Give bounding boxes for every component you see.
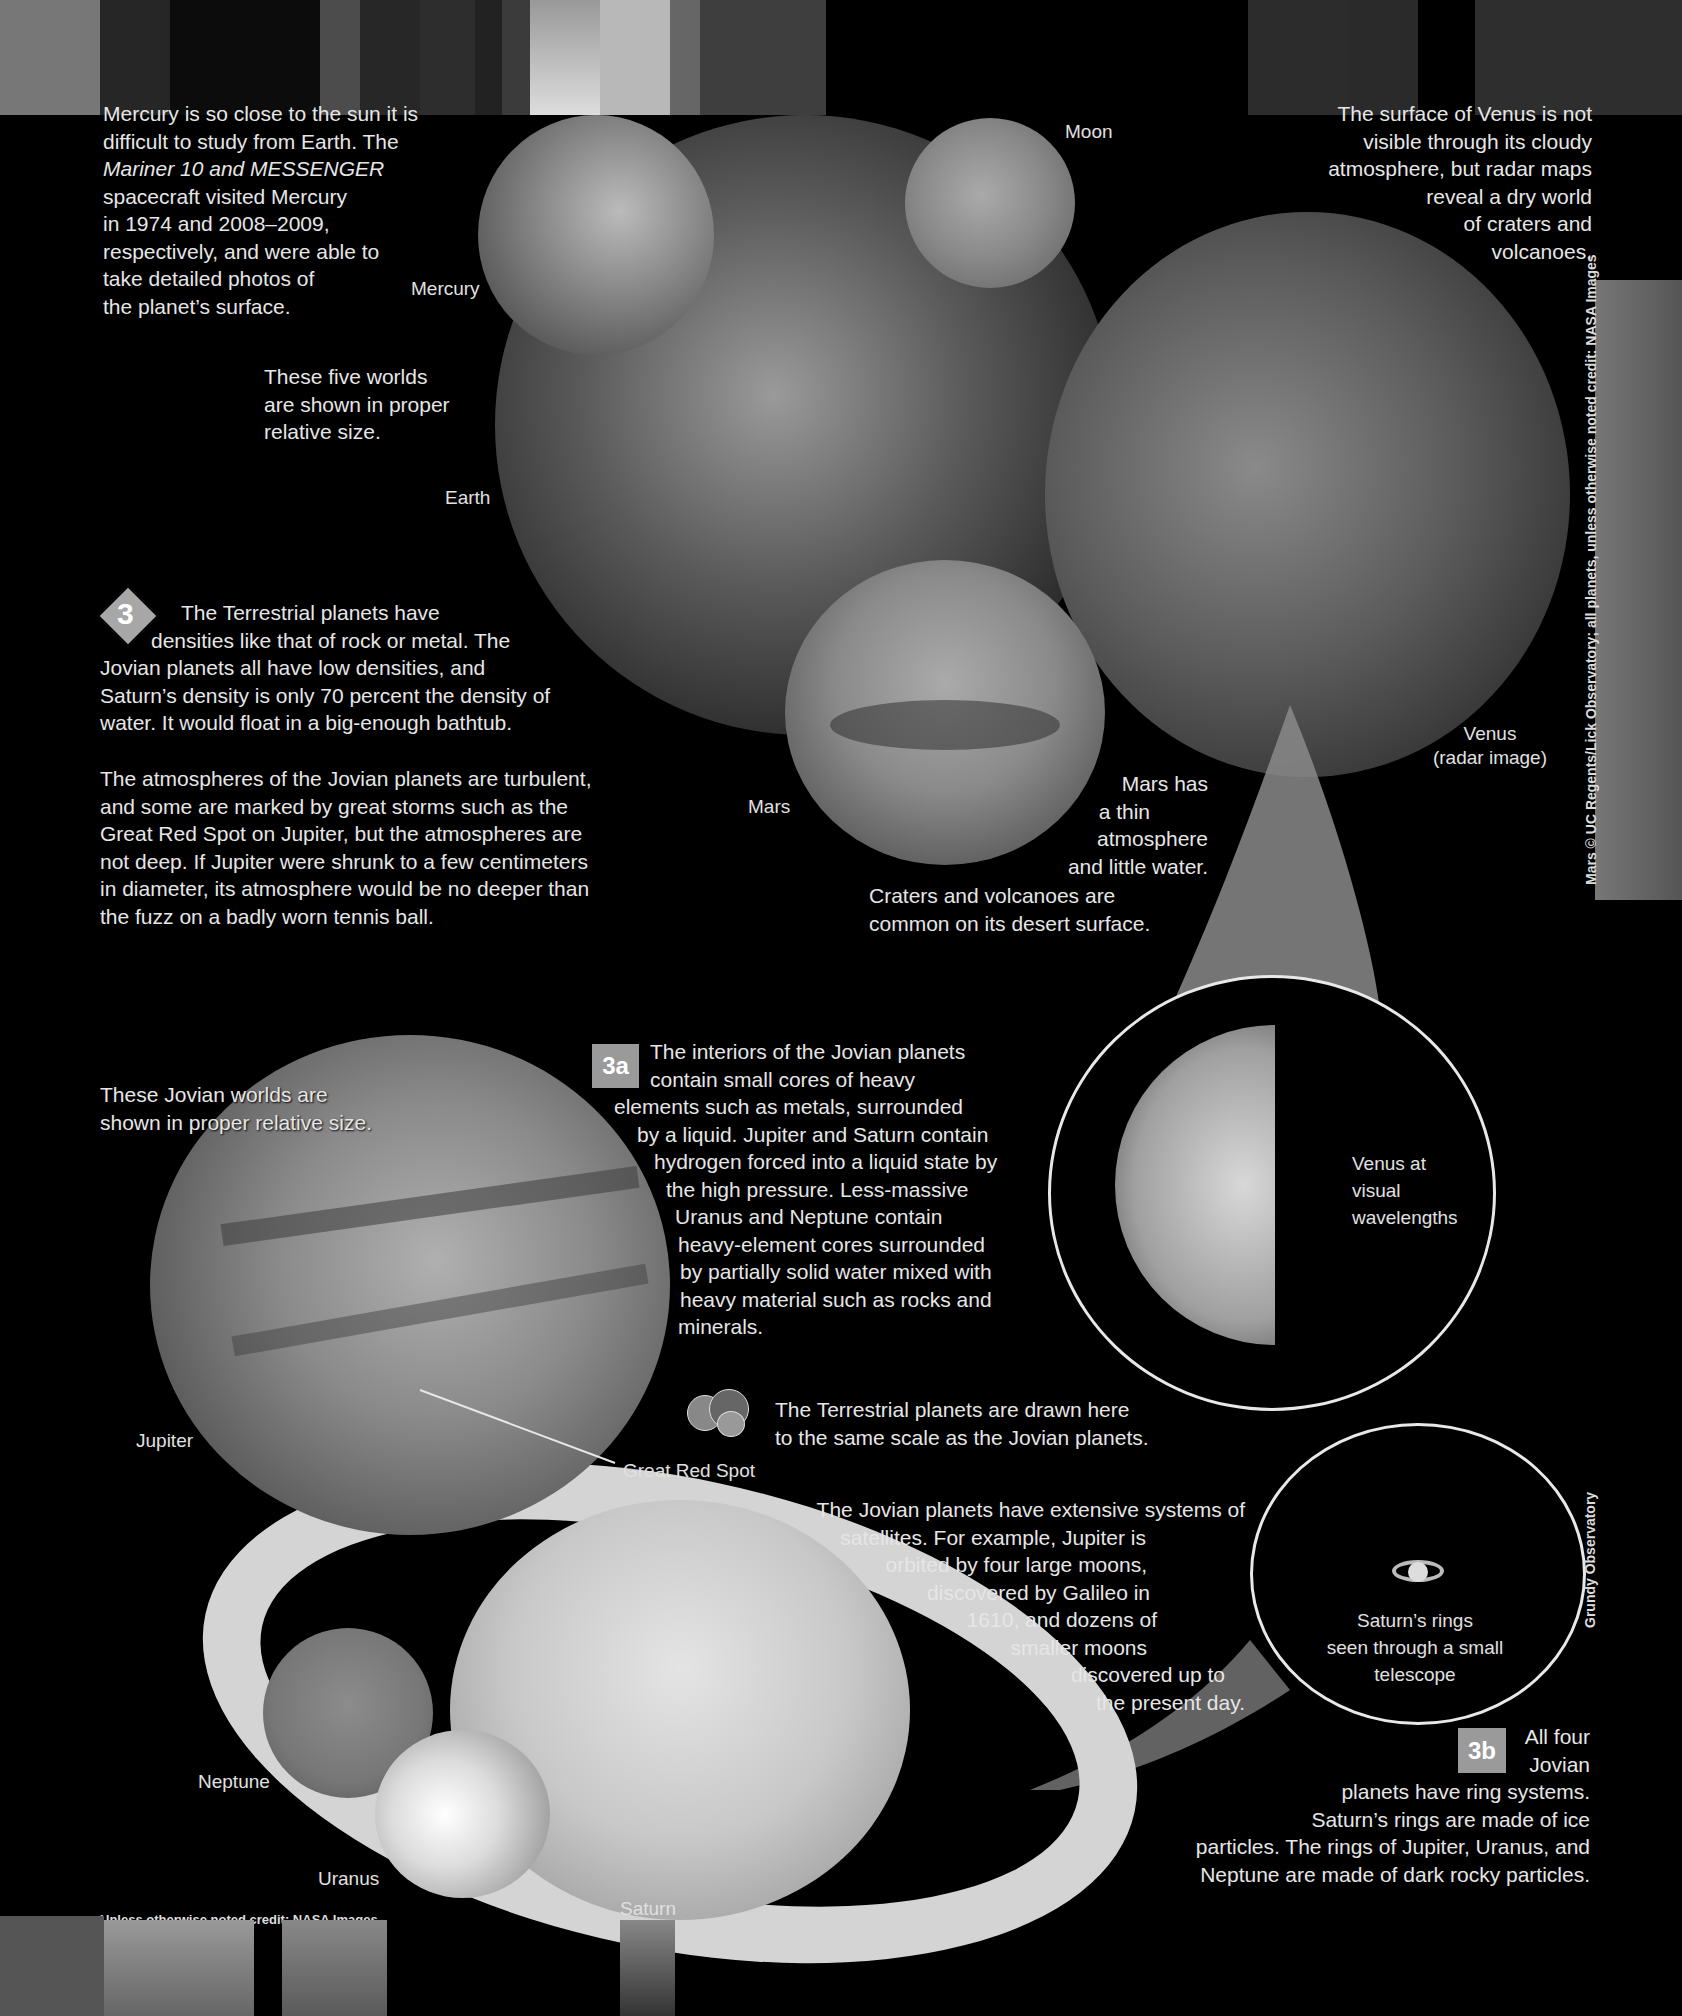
saturn-telescope-label: Saturn’s rings seen through a small tele…	[1300, 1607, 1530, 1688]
text-line: are shown in proper	[264, 391, 450, 419]
venus-label-name: Venus	[1420, 722, 1560, 746]
text-line: elements such as metals, surrounded	[614, 1093, 997, 1121]
uranus-label: Uranus	[318, 1867, 379, 1891]
text-line: Mars has	[1068, 770, 1208, 798]
text-line: and some are marked by great storms such…	[100, 793, 591, 821]
mars-note-continued: Craters and volcanoes are common on its …	[869, 882, 1150, 937]
text-line: to the same scale as the Jovian planets.	[775, 1424, 1149, 1452]
mercury-label: Mercury	[411, 277, 480, 301]
venus-visual-label: Venus at visual wavelengths	[1352, 1150, 1458, 1231]
mars-note: Mars has a thin atmosphere and little wa…	[1068, 770, 1208, 880]
text-line: Jovian planets all have low densities, a…	[100, 654, 550, 682]
uranus-image	[375, 1730, 550, 1898]
section-3b-text: All four Jovian planets have ring system…	[1196, 1723, 1590, 1888]
text-line: smaller moons	[817, 1634, 1245, 1662]
text-line: Mariner 10 and MESSENGER	[103, 155, 418, 183]
text-line: in diameter, its atmosphere would be no …	[100, 875, 591, 903]
text-line: heavy-element cores surrounded	[614, 1231, 997, 1259]
text-line: satellites. For example, Jupiter is	[817, 1524, 1245, 1552]
text-line: telescope	[1300, 1661, 1530, 1688]
text-line: a thin	[1068, 798, 1208, 826]
text-line: take detailed photos of	[103, 265, 418, 293]
text-line: spacecraft visited Mercury	[103, 183, 418, 211]
jupiter-label: Jupiter	[136, 1429, 193, 1453]
text-line: in 1974 and 2008–2009,	[103, 210, 418, 238]
text-line: hydrogen forced into a liquid state by	[614, 1148, 997, 1176]
great-red-spot-label: Great Red Spot	[623, 1459, 755, 1483]
section-3a-text: The interiors of the Jovian planets cont…	[614, 1038, 997, 1341]
mars-label: Mars	[748, 795, 790, 819]
text-line: the present day.	[817, 1689, 1245, 1717]
text-line: densities like that of rock or metal. Th…	[100, 627, 550, 655]
earth-label: Earth	[445, 486, 490, 510]
text-line: minerals.	[614, 1313, 997, 1341]
bottom-scan-artifact-3	[282, 1920, 387, 2016]
text-line: and little water.	[1068, 853, 1208, 881]
text-line: reveal a dry world	[1328, 183, 1592, 211]
text-line: These five worlds	[264, 363, 450, 391]
mercury-note: Mercury is so close to the sun it is dif…	[103, 100, 418, 320]
text-line: The interiors of the Jovian planets	[614, 1038, 997, 1066]
text-line: volcanoes.	[1328, 238, 1592, 266]
text-line: The Jovian planets have extensive system…	[817, 1496, 1245, 1524]
satellites-note: The Jovian planets have extensive system…	[817, 1496, 1245, 1716]
text-line: particles. The rings of Jupiter, Uranus,…	[1196, 1833, 1590, 1861]
text-line: The Terrestrial planets are drawn here	[775, 1396, 1149, 1424]
text-line: shown in proper relative size.	[100, 1109, 372, 1137]
text-line: All four	[1196, 1723, 1590, 1751]
text-line: Mercury is so close to the sun it is	[103, 100, 418, 128]
text-line: Saturn’s density is only 70 percent the …	[100, 682, 550, 710]
text-line: wavelengths	[1352, 1204, 1458, 1231]
text-line: atmosphere, but radar maps	[1328, 155, 1592, 183]
text-line: visual	[1352, 1177, 1458, 1204]
text-line: by a liquid. Jupiter and Saturn contain	[614, 1121, 997, 1149]
text-line: not deep. If Jupiter were shrunk to a fe…	[100, 848, 591, 876]
text-line: of craters and	[1328, 210, 1592, 238]
text-line: Uranus and Neptune contain	[614, 1203, 997, 1231]
text-line: the planet’s surface.	[103, 293, 418, 321]
grundy-observatory-credit: Grundy Observatory	[1582, 1492, 1598, 1628]
text-line: Neptune are made of dark rocky particles…	[1196, 1861, 1590, 1889]
text-line: The atmospheres of the Jovian planets ar…	[100, 765, 591, 793]
text-line: the fuzz on a badly worn tennis ball.	[100, 903, 591, 931]
text-line: The Terrestrial planets have	[100, 599, 550, 627]
text-line: Craters and volcanoes are	[869, 882, 1150, 910]
text-line: Venus at	[1352, 1150, 1458, 1177]
text-line: relative size.	[264, 418, 450, 446]
text-line: atmosphere	[1068, 825, 1208, 853]
saturn-label: Saturn	[620, 1897, 676, 1921]
text-line: contain small cores of heavy	[614, 1066, 997, 1094]
text-line: The surface of Venus is not	[1328, 100, 1592, 128]
section-3-para-2: The atmospheres of the Jovian planets ar…	[100, 765, 591, 930]
text-line: heavy material such as rocks and	[614, 1286, 997, 1314]
text-line: seen through a small	[1300, 1634, 1530, 1661]
venus-label: Venus (radar image)	[1420, 722, 1560, 770]
venus-note: The surface of Venus is not visible thro…	[1328, 100, 1592, 265]
moon-label: Moon	[1065, 120, 1113, 144]
text-line: respectively, and were able to	[103, 238, 418, 266]
text-line: orbited by four large moons,	[817, 1551, 1245, 1579]
text-line: discovered by Galileo in	[817, 1579, 1245, 1607]
text-line: difficult to study from Earth. The	[103, 128, 418, 156]
text-line: Saturn’s rings are made of ice	[1196, 1806, 1590, 1834]
text-line: water. It would float in a big-enough ba…	[100, 709, 550, 737]
bottom-scan-artifact-1	[0, 1916, 104, 2016]
text-line: common on its desert surface.	[869, 910, 1150, 938]
bottom-scan-artifact-4	[620, 1920, 675, 2016]
text-line: discovered up to	[817, 1661, 1245, 1689]
text-line: the high pressure. Less-massive	[614, 1176, 997, 1204]
bottom-scan-artifact-2	[104, 1920, 254, 2016]
text-line: These Jovian worlds are	[100, 1081, 372, 1109]
text-line: planets have ring systems.	[1196, 1778, 1590, 1806]
photo-credit-vertical: Mars © UC Regents/Lick Observatory; all …	[1583, 254, 1599, 885]
terrestrial-planets-mini-icon	[687, 1389, 755, 1437]
text-line: Saturn’s rings	[1300, 1607, 1530, 1634]
text-line: 1610, and dozens of	[817, 1606, 1245, 1634]
section-3-para-1: The Terrestrial planets have densities l…	[100, 599, 550, 737]
text-line: by partially solid water mixed with	[614, 1258, 997, 1286]
five-worlds-note: These five worlds are shown in proper re…	[264, 363, 450, 446]
text-line: Jovian	[1196, 1751, 1590, 1779]
text-line: Great Red Spot on Jupiter, but the atmos…	[100, 820, 591, 848]
text-line: visible through its cloudy	[1328, 128, 1592, 156]
neptune-label: Neptune	[198, 1770, 270, 1794]
